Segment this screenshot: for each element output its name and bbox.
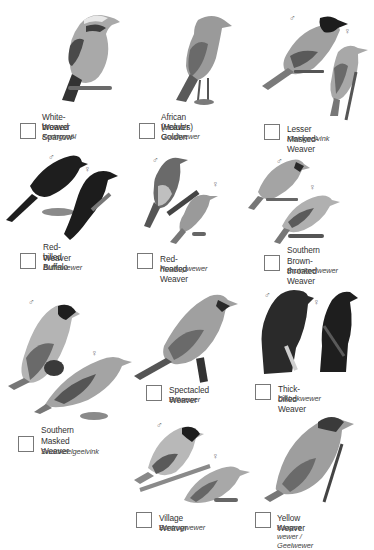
southern-masked-weaver-illustration — [4, 296, 136, 424]
bird-name-line-2: Weaver — [43, 253, 71, 263]
checkbox-southern-brown-throated-weaver[interactable] — [264, 255, 280, 271]
checkbox-african-golden-weaver[interactable] — [139, 123, 155, 139]
bird-name-line-1: Southern — [287, 245, 320, 255]
bird-afrikaans-name: Kleingeelvink — [287, 134, 329, 143]
bird-afrikaans-name: Goudwewer — [161, 132, 200, 141]
bird-name-line-1: Southern — [41, 425, 74, 435]
bird-afrikaans-name: Buffelwewer — [43, 263, 82, 272]
bird-afrikaans-name: Rooikopwewer — [160, 264, 207, 273]
bird-afrikaans-name: Koringvoël — [42, 132, 76, 141]
bird-afrikaans-name: Swartkeelgeelvink — [41, 447, 99, 456]
checkbox-red-headed-weaver[interactable] — [137, 253, 153, 269]
red-billed-buffalo-weaver-illustration — [6, 150, 121, 242]
bird-afrikaans-name: Brilwewer — [169, 395, 200, 404]
checkbox-white-browed-sparrow-weaver[interactable] — [20, 123, 36, 139]
bird-afrikaans-name: Kaapse wewer / Geelwewer — [277, 523, 313, 550]
checkbox-red-billed-buffalo-weaver[interactable] — [20, 253, 36, 269]
red-headed-weaver-illustration — [138, 152, 238, 244]
checkbox-thick-billed-weaver[interactable] — [255, 384, 271, 400]
bird-afrikaans-name: Dikbekwewer — [278, 394, 321, 403]
bird-afrikaans-name: Bruinkeelwewer — [287, 266, 338, 275]
checkbox-spectacled-weaver[interactable] — [146, 385, 162, 401]
bird-name-line-2: Weaver — [161, 122, 189, 132]
southern-brown-throated-weaver-illustration — [248, 152, 344, 244]
bird-afrikaans-name: Bontrugwewer — [159, 523, 205, 532]
lesser-masked-weaver-illustration — [258, 12, 374, 122]
village-weaver-illustration — [134, 418, 252, 510]
yellow-weaver-illustration — [262, 404, 362, 504]
checkbox-southern-masked-weaver[interactable] — [18, 436, 34, 452]
african-golden-weaver-illustration — [168, 10, 238, 110]
checkbox-yellow-weaver[interactable] — [255, 512, 271, 528]
bird-name-line-2: Weaver — [42, 122, 70, 132]
white-browed-sparrow-weaver-illustration — [50, 6, 125, 106]
checkbox-lesser-masked-weaver[interactable] — [264, 124, 280, 140]
spectacled-weaver-illustration — [134, 286, 242, 382]
thick-billed-weaver-illustration — [254, 286, 372, 378]
checkbox-village-weaver[interactable] — [136, 512, 152, 528]
